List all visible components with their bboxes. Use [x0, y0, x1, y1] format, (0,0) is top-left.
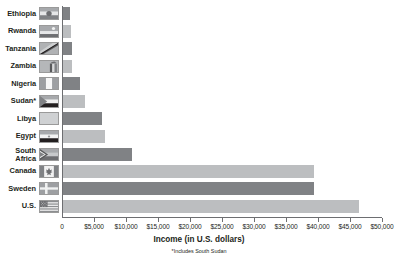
category-label: Ethiopia	[0, 10, 39, 18]
y-axis-line	[62, 6, 63, 217]
bar-track	[62, 130, 398, 143]
x-axis-tick-label: $30,000	[242, 223, 265, 230]
bar	[62, 112, 102, 125]
bar-track	[62, 60, 398, 73]
x-axis-tick-label: $10,000	[114, 223, 137, 230]
flag-tanzania-icon	[39, 42, 59, 55]
bar-track	[62, 112, 398, 125]
bar	[62, 77, 80, 90]
category-label: Nigeria	[0, 80, 39, 88]
x-axis-tick	[350, 218, 351, 222]
x-axis-tick	[286, 218, 287, 222]
bar	[62, 182, 314, 195]
category-label: Tanzania	[0, 45, 39, 53]
flag-zambia-icon	[39, 60, 59, 73]
category-label: Rwanda	[0, 27, 39, 35]
flag-rwanda-icon	[39, 25, 59, 38]
category-label: South Africa	[0, 147, 39, 162]
bar	[62, 60, 72, 73]
bar-row: U.S.	[0, 200, 398, 213]
flag-canada-icon	[39, 165, 59, 178]
bar-track	[62, 165, 398, 178]
category-label: Canada	[0, 167, 39, 175]
flag-nigeria-icon	[39, 77, 59, 90]
category-label: Libya	[0, 115, 39, 123]
x-axis-tick-label: $35,000	[274, 223, 297, 230]
bar-row: Nigeria	[0, 77, 398, 90]
category-label: Sudan*	[0, 97, 39, 105]
bar-track	[62, 25, 398, 38]
bar	[62, 148, 132, 161]
bar-row: South Africa	[0, 147, 398, 162]
x-axis-tick	[158, 218, 159, 222]
bar	[62, 130, 105, 143]
bar-track	[62, 77, 398, 90]
x-axis-tick	[94, 218, 95, 222]
x-axis-title: Income (in U.S. dollars)	[0, 235, 398, 244]
bar-row: Tanzania	[0, 42, 398, 55]
bar-row: Egypt	[0, 130, 398, 143]
x-axis-tick-label: $5,000	[84, 223, 104, 230]
plot-area: EthiopiaRwandaTanzaniaZambiaNigeriaSudan…	[0, 6, 398, 217]
flag-south-africa-icon	[39, 148, 59, 161]
x-axis-tick-label: 0	[60, 223, 64, 230]
x-axis-tick-label: $25,000	[210, 223, 233, 230]
bar-row: Sudan*	[0, 95, 398, 108]
bar	[62, 200, 359, 213]
bar-row: Sweden	[0, 182, 398, 195]
bar-track	[62, 42, 398, 55]
x-axis-tick	[254, 218, 255, 222]
flag-united-states-icon	[39, 200, 59, 213]
bar	[62, 25, 71, 38]
bar-row: Zambia	[0, 60, 398, 73]
x-axis-tick-label: $40,000	[306, 223, 329, 230]
category-label: Sweden	[0, 185, 39, 193]
flag-libya-icon	[39, 112, 59, 125]
x-axis-tick	[318, 218, 319, 222]
x-axis-tick	[222, 218, 223, 222]
category-label: Zambia	[0, 62, 39, 70]
flag-sweden-icon	[39, 182, 59, 195]
bar	[62, 165, 314, 178]
flag-egypt-icon	[39, 130, 59, 143]
x-axis-tick	[382, 218, 383, 222]
x-axis-tick-label: $20,000	[178, 223, 201, 230]
bar-track	[62, 148, 398, 161]
category-label: Egypt	[0, 132, 39, 140]
income-bar-chart: EthiopiaRwandaTanzaniaZambiaNigeriaSudan…	[0, 0, 398, 261]
bar	[62, 42, 72, 55]
x-axis-tick	[126, 218, 127, 222]
bar-track	[62, 95, 398, 108]
chart-footnote: *Includes South Sudan	[0, 248, 398, 254]
x-axis-tick-label: $45,000	[338, 223, 361, 230]
bar-row: Canada	[0, 165, 398, 178]
flag-sudan-icon	[39, 95, 59, 108]
bar-track	[62, 7, 398, 20]
x-axis-tick-label: $50,000	[370, 223, 393, 230]
bar-row: Ethiopia	[0, 7, 398, 20]
bar-track	[62, 200, 398, 213]
x-axis-tick-label: $15,000	[146, 223, 169, 230]
bar-row: Libya	[0, 112, 398, 125]
bar	[62, 7, 70, 20]
bar	[62, 95, 85, 108]
x-axis-tick	[190, 218, 191, 222]
category-label: U.S.	[0, 202, 39, 210]
flag-ethiopia-icon	[39, 7, 59, 20]
bar-row: Rwanda	[0, 25, 398, 38]
bar-track	[62, 182, 398, 195]
